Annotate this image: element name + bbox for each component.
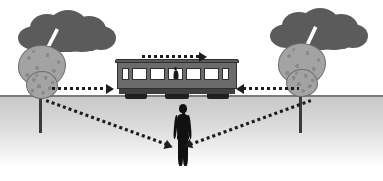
train-window (122, 68, 129, 80)
train-bogie (165, 94, 189, 99)
horizon-line (0, 95, 383, 97)
tree-crown-lower (26, 71, 58, 99)
train-window (222, 68, 229, 80)
train-window (150, 68, 165, 80)
arrow-train-motion (142, 55, 200, 58)
train-window-with-passenger (168, 68, 183, 80)
train-window (186, 68, 201, 80)
arrow-light-right (243, 87, 299, 90)
arrowhead-left-icon (236, 84, 244, 94)
train-window-row (122, 68, 232, 80)
train-window (204, 68, 219, 80)
observer-leg (178, 136, 183, 166)
ground-observer-silhouette (172, 104, 194, 166)
simultaneity-diagram (0, 0, 383, 181)
train-bogie (125, 94, 147, 99)
cloud-puff (60, 29, 104, 52)
train-passenger-silhouette (173, 70, 178, 79)
train-bogie (207, 94, 229, 99)
arrowhead-right-icon (199, 52, 207, 62)
tree-crown-lower (286, 69, 318, 97)
train-window (132, 68, 147, 80)
arrowhead-right-icon (106, 84, 114, 94)
arrow-light-left (52, 87, 107, 90)
